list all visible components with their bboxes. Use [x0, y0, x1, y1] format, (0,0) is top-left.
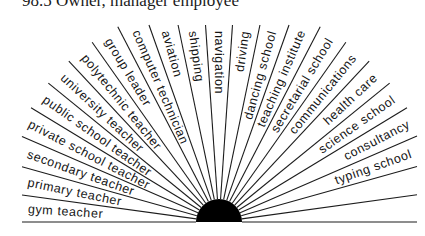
ray-labels: gym teacherprimary teachersecondary teac… — [25, 28, 413, 221]
occupation-label: driving — [233, 30, 252, 73]
occupation-label: navigation — [212, 31, 226, 94]
half-circle-hub — [196, 199, 242, 222]
ray-line — [242, 195, 417, 219]
occupation-fan-diagram: gym teacherprimary teachersecondary teac… — [0, 0, 425, 236]
occupation-label: aviation — [159, 29, 185, 79]
